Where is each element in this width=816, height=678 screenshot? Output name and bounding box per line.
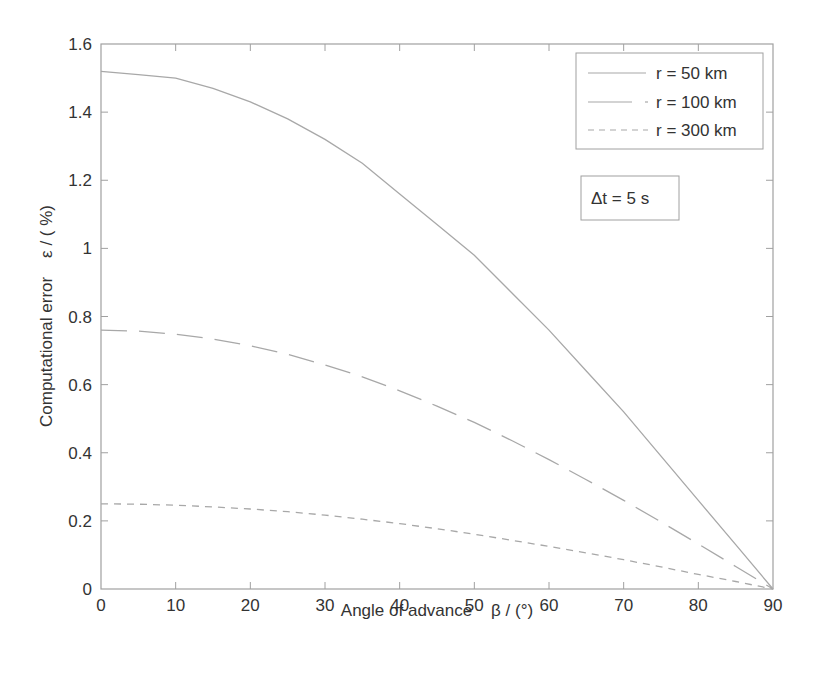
- x-tick-label: 20: [241, 596, 260, 615]
- y-tick-label: 0: [83, 580, 92, 599]
- legend-label-r300: r = 300 km: [656, 121, 737, 140]
- x-tick-label: 0: [96, 596, 105, 615]
- legend: r = 50 km r = 100 km r = 300 km: [576, 53, 763, 149]
- y-tick-label: 0.4: [68, 444, 92, 463]
- annotation-text: Δt = 5 s: [591, 189, 649, 208]
- delta-t-annotation: Δt = 5 s: [581, 176, 679, 220]
- y-tick-label: 1.2: [68, 171, 92, 190]
- x-tick-label: 90: [764, 596, 783, 615]
- x-tick-label: 10: [166, 596, 185, 615]
- y-tick-labels: 00.20.40.60.811.21.41.6: [68, 35, 92, 599]
- line-chart: 0102030405060708090 00.20.40.60.811.21.4…: [0, 0, 816, 678]
- y-tick-label: 0.8: [68, 308, 92, 327]
- legend-label-r100: r = 100 km: [656, 93, 737, 112]
- series-line-r-100-km: [101, 330, 773, 589]
- y-tick-label: 1.6: [68, 35, 92, 54]
- legend-label-r50: r = 50 km: [656, 64, 727, 83]
- y-axis-title: Computational error ε / ( %): [37, 205, 56, 427]
- y-tick-label: 0.6: [68, 376, 92, 395]
- y-tick-label: 1: [83, 239, 92, 258]
- x-axis-title: Angle of advance β / (°): [341, 601, 533, 620]
- y-tick-label: 0.2: [68, 512, 92, 531]
- series-line-r-300-km: [101, 504, 773, 589]
- x-tick-label: 70: [614, 596, 633, 615]
- x-tick-label: 60: [540, 596, 559, 615]
- y-tick-label: 1.4: [68, 103, 92, 122]
- x-tick-label: 30: [316, 596, 335, 615]
- x-tick-label: 80: [689, 596, 708, 615]
